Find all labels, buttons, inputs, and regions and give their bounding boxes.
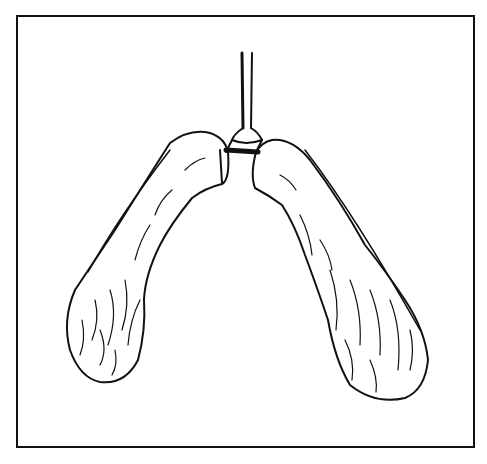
- right-wing: [253, 140, 428, 400]
- samara-illustration: [0, 0, 487, 464]
- left-wing: [67, 132, 228, 383]
- stem: [226, 53, 262, 152]
